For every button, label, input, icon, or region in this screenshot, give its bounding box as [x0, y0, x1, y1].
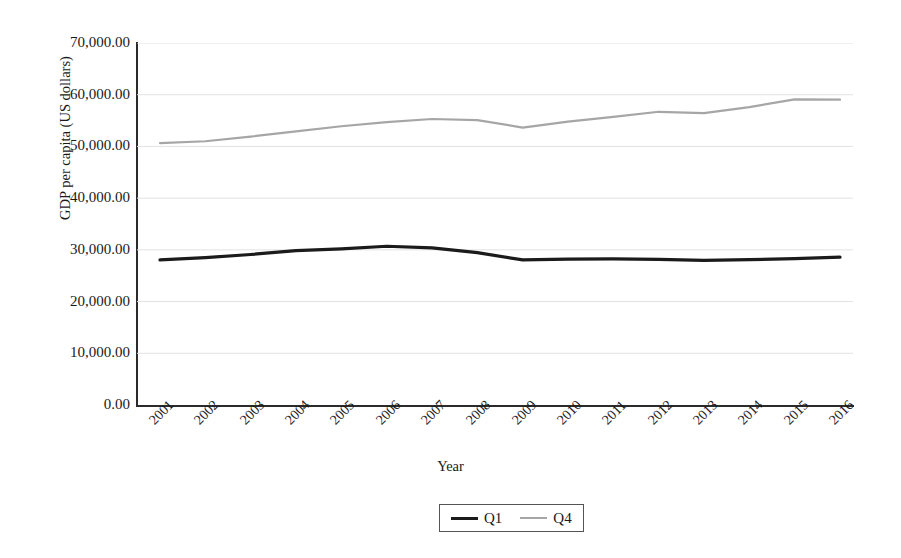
chart-page: GDP per capita (US dollars) 70,000.0060,…	[0, 0, 901, 558]
y-axis-tick-label: 30,000.00	[10, 241, 130, 258]
chart-legend: Q1 Q4	[439, 504, 584, 532]
series-line-q1	[160, 246, 840, 260]
y-axis-tick-label: 70,000.00	[10, 34, 130, 51]
series-lines	[160, 99, 840, 260]
legend-label-q1: Q1	[484, 511, 502, 526]
plot-svg	[137, 43, 853, 405]
legend-entry-q1[interactable]: Q1	[451, 511, 502, 526]
y-axis-tick-label: 40,000.00	[10, 189, 130, 206]
legend-entry-q4[interactable]: Q4	[520, 511, 571, 526]
y-axis-tick-label: 10,000.00	[10, 344, 130, 361]
legend-line-swatch-q4	[520, 517, 547, 519]
plot-area	[137, 43, 853, 405]
y-axis-tick-label: 0.00	[10, 396, 130, 413]
y-axis-tick-label: 20,000.00	[10, 293, 130, 310]
gridlines	[137, 43, 853, 353]
legend-line-swatch-q1	[451, 517, 478, 520]
x-axis-title: Year	[0, 458, 901, 475]
x-axis-tick-labels: 2001200220032004200520062007200820092010…	[137, 405, 853, 465]
legend-label-q4: Q4	[553, 511, 571, 526]
series-line-q4	[160, 99, 840, 143]
y-axis-tick-label: 50,000.00	[10, 137, 130, 154]
y-axis-tick-label: 60,000.00	[10, 86, 130, 103]
